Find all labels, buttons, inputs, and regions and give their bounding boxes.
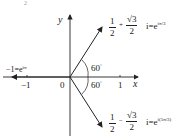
plus-sign: + — [119, 22, 123, 29]
point-neg1-label: −1=eiπ — [6, 66, 27, 74]
fraction-half: 12 — [109, 113, 116, 134]
angle-arc-lower — [82, 77, 88, 94]
x-axis-label: x — [133, 79, 137, 89]
origin-label: 0 — [60, 81, 65, 90]
angle-label-upper: 60° — [91, 64, 102, 73]
fraction-sqrt3-half: √32 — [126, 15, 137, 36]
complex-plane-diagram: 2 y x 0 −1 1 60° 60° −1=eiπ 12 + √32 i=e… — [0, 0, 189, 140]
y-axis-label: y — [58, 15, 62, 25]
euler-form-lower: i=ei(5π/3) — [146, 118, 171, 127]
angle-arc-upper — [82, 60, 88, 77]
tick-label-neg1: −1 — [21, 81, 31, 90]
fraction-sqrt3-half: √32 — [126, 111, 137, 132]
euler-form-upper: i=eiπ/3 — [146, 22, 165, 31]
figure-label: 2 — [24, 0, 27, 6]
fraction-half: 12 — [109, 17, 116, 38]
angle-label-lower: 60° — [91, 81, 102, 90]
tick-label-pos1: 1 — [118, 81, 123, 90]
minus-sign: − — [119, 118, 123, 125]
